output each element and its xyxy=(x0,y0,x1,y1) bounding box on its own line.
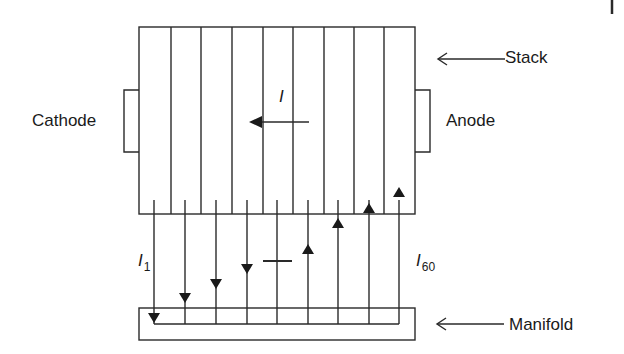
stack-cell-dividers xyxy=(171,27,384,214)
current-last-label: I60 xyxy=(416,252,435,269)
anode-label: Anode xyxy=(446,112,495,129)
cathode-terminal xyxy=(124,90,139,152)
arrow-up-icon xyxy=(332,218,344,228)
arrow-up-icon xyxy=(302,244,314,254)
arrow-down-icon xyxy=(179,293,191,303)
current-main-label: I xyxy=(279,88,284,105)
cathode-label: Cathode xyxy=(32,112,96,129)
arrow-down-icon xyxy=(148,313,160,323)
arrow-down-icon xyxy=(210,279,222,289)
arrow-down-icon xyxy=(241,264,253,274)
current-first-subscript: 1 xyxy=(144,260,151,274)
current-last-symbol: I xyxy=(416,251,421,270)
anode-terminal xyxy=(415,90,430,152)
stack-label: Stack xyxy=(505,49,548,66)
manifold-label: Manifold xyxy=(509,316,573,333)
arrow-up-icon xyxy=(363,203,375,213)
current-last-subscript: 60 xyxy=(422,260,435,274)
current-arrow-head-icon xyxy=(249,116,262,128)
arrow-up-icon xyxy=(393,187,405,197)
current-first-symbol: I xyxy=(138,251,143,270)
stack-box xyxy=(139,27,415,214)
current-first-label: I1 xyxy=(138,252,150,269)
